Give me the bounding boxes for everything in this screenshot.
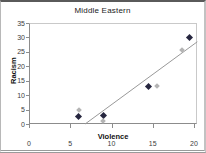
trendline-layer [1, 2, 206, 153]
chart-frame: Middle Eastern Racism Violence 051015202… [0, 0, 206, 153]
x-axis-title: Violence [79, 132, 147, 141]
